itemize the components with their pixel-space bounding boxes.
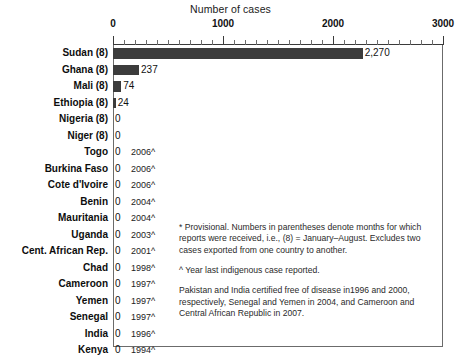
bar-year-annotation: 2003^ [131, 227, 155, 244]
bar-value-label: 0 [115, 161, 121, 178]
bar-value-label: 0 [115, 309, 121, 326]
bar-row-label: Cote d'Ivoire [0, 177, 108, 194]
footnote-provisional: * Provisional. Numbers in parentheses de… [179, 222, 431, 256]
bar-year-annotation: 2004^ [131, 194, 155, 211]
bar-row-label: Cent. African Rep. [0, 243, 108, 260]
bar-value-label: 0 [115, 177, 121, 194]
bar-year-annotation: 1997^ [131, 276, 155, 293]
bar [113, 98, 116, 109]
bar-row: India01996^ [0, 326, 461, 343]
bar-row-label: Mauritania [0, 210, 108, 227]
bar-row: Ethiopia (8)24 [0, 95, 461, 112]
bar-row-label: Togo [0, 144, 108, 161]
bar-row: Niger (8)0 [0, 128, 461, 145]
bar-value-label: 0 [115, 293, 121, 310]
bar [113, 48, 363, 59]
bar-year-annotation: 1996^ [131, 326, 155, 343]
bar-value-label: 237 [141, 62, 158, 79]
bar-row-label: Kenya [0, 342, 108, 359]
bar-row-label: Yemen [0, 293, 108, 310]
bar-row-label: Senegal [0, 309, 108, 326]
footnote-certification: Pakistan and India certified free of dis… [179, 285, 431, 319]
bar-row-label: Niger (8) [0, 128, 108, 145]
bar-value-label: 0 [115, 210, 121, 227]
bar-row: Burkina Faso02006^ [0, 161, 461, 178]
bar-row: Nigeria (8)0 [0, 111, 461, 128]
bar-row-label: Ghana (8) [0, 62, 108, 79]
bar-value-label: 0 [115, 227, 121, 244]
chart-container: Number of cases 0100020003000 Sudan (8)2… [0, 0, 461, 360]
x-axis-tick-label: 2000 [322, 18, 344, 29]
bar-value-label: 0 [115, 342, 121, 359]
bar [113, 65, 139, 76]
bar-year-annotation: 1998^ [131, 260, 155, 277]
footnote-year-note: ^ Year last indigenous case reported. [179, 265, 431, 276]
bar-row-label: India [0, 326, 108, 343]
x-axis-tick-label: 0 [110, 18, 116, 29]
bar-row-label: Nigeria (8) [0, 111, 108, 128]
bar-value-label: 0 [115, 128, 121, 145]
bar-value-label: 2,270 [365, 45, 390, 62]
x-axis-major-tick [223, 36, 224, 45]
bar-value-label: 0 [115, 326, 121, 343]
bar-year-annotation: 2006^ [131, 177, 155, 194]
bar-year-annotation: 1997^ [131, 309, 155, 326]
bar-row-label: Cameroon [0, 276, 108, 293]
bar-value-label: 0 [115, 111, 121, 128]
bar-year-annotation: 1994^ [131, 342, 155, 359]
bar-row-label: Ethiopia (8) [0, 95, 108, 112]
bar [113, 81, 121, 92]
bar-row: Ghana (8)237 [0, 62, 461, 79]
bar-value-label: 0 [115, 260, 121, 277]
bar-row-label: Sudan (8) [0, 45, 108, 62]
bar-year-annotation: 2001^ [131, 243, 155, 260]
bar-row: Togo02006^ [0, 144, 461, 161]
x-axis-major-tick [443, 36, 444, 45]
footnotes-block: * Provisional. Numbers in parentheses de… [179, 222, 431, 319]
bar-value-label: 74 [123, 78, 134, 95]
bar-year-annotation: 2004^ [131, 210, 155, 227]
bar-value-label: 0 [115, 144, 121, 161]
bar-year-annotation: 1997^ [131, 293, 155, 310]
x-axis-major-tick [113, 36, 114, 45]
bar-row-label: Uganda [0, 227, 108, 244]
x-axis-tick-label: 1000 [212, 18, 234, 29]
bar-row-label: Chad [0, 260, 108, 277]
x-axis-major-tick [333, 36, 334, 45]
bar-row: Kenya01994^ [0, 342, 461, 359]
chart-title: Number of cases [0, 3, 461, 15]
x-axis-tick-label: 3000 [432, 18, 454, 29]
bar-row: Cote d'Ivoire02006^ [0, 177, 461, 194]
bar-row-label: Benin [0, 194, 108, 211]
bar-value-label: 24 [118, 95, 129, 112]
bar-row-label: Burkina Faso [0, 161, 108, 178]
bar-value-label: 0 [115, 243, 121, 260]
bar-row-label: Mali (8) [0, 78, 108, 95]
bar-row: Sudan (8)2,270 [0, 45, 461, 62]
bar-year-annotation: 2006^ [131, 144, 155, 161]
bar-year-annotation: 2006^ [131, 161, 155, 178]
bar-row: Mali (8)74 [0, 78, 461, 95]
bar-value-label: 0 [115, 194, 121, 211]
bar-row: Benin02004^ [0, 194, 461, 211]
bar-value-label: 0 [115, 276, 121, 293]
